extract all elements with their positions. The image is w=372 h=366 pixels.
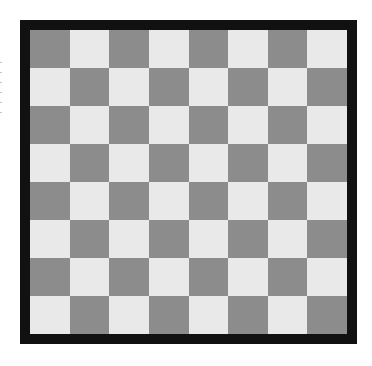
chessboard: [20, 20, 357, 344]
board-square[interactable]: [228, 30, 268, 68]
board-square[interactable]: [30, 106, 70, 144]
board-square[interactable]: [307, 182, 347, 220]
board-square[interactable]: [30, 258, 70, 296]
board-grid: [30, 30, 347, 334]
board-square[interactable]: [30, 220, 70, 258]
board-square[interactable]: [189, 144, 229, 182]
board-square[interactable]: [268, 296, 308, 334]
board-square[interactable]: [149, 220, 189, 258]
board-square[interactable]: [307, 144, 347, 182]
board-square[interactable]: [70, 144, 110, 182]
board-square[interactable]: [149, 144, 189, 182]
board-square[interactable]: [189, 182, 229, 220]
board-square[interactable]: [189, 30, 229, 68]
board-square[interactable]: [70, 220, 110, 258]
board-square[interactable]: [70, 296, 110, 334]
board-square[interactable]: [189, 106, 229, 144]
board-square[interactable]: [109, 182, 149, 220]
board-square[interactable]: [307, 220, 347, 258]
board-square[interactable]: [109, 30, 149, 68]
board-square[interactable]: [268, 220, 308, 258]
board-square[interactable]: [149, 68, 189, 106]
board-square[interactable]: [307, 30, 347, 68]
board-square[interactable]: [307, 68, 347, 106]
board-square[interactable]: [149, 258, 189, 296]
board-square[interactable]: [30, 30, 70, 68]
board-square[interactable]: [268, 106, 308, 144]
board-square[interactable]: [109, 68, 149, 106]
board-square[interactable]: [189, 68, 229, 106]
edge-marks: [0, 62, 3, 122]
board-square[interactable]: [149, 106, 189, 144]
board-square[interactable]: [109, 220, 149, 258]
board-square[interactable]: [268, 258, 308, 296]
board-square[interactable]: [228, 182, 268, 220]
board-square[interactable]: [307, 106, 347, 144]
board-square[interactable]: [30, 144, 70, 182]
board-square[interactable]: [30, 68, 70, 106]
board-square[interactable]: [228, 68, 268, 106]
board-square[interactable]: [228, 106, 268, 144]
board-square[interactable]: [189, 220, 229, 258]
board-square[interactable]: [228, 220, 268, 258]
board-square[interactable]: [228, 296, 268, 334]
board-square[interactable]: [149, 30, 189, 68]
board-square[interactable]: [268, 30, 308, 68]
board-square[interactable]: [149, 296, 189, 334]
board-square[interactable]: [70, 30, 110, 68]
board-square[interactable]: [70, 68, 110, 106]
board-square[interactable]: [189, 258, 229, 296]
board-square[interactable]: [149, 182, 189, 220]
board-square[interactable]: [109, 258, 149, 296]
board-square[interactable]: [109, 144, 149, 182]
board-square[interactable]: [109, 296, 149, 334]
board-square[interactable]: [30, 296, 70, 334]
board-square[interactable]: [70, 182, 110, 220]
board-square[interactable]: [307, 258, 347, 296]
board-square[interactable]: [70, 106, 110, 144]
board-square[interactable]: [307, 296, 347, 334]
board-square[interactable]: [268, 182, 308, 220]
board-square[interactable]: [268, 144, 308, 182]
board-square[interactable]: [70, 258, 110, 296]
board-square[interactable]: [228, 258, 268, 296]
board-square[interactable]: [30, 182, 70, 220]
board-square[interactable]: [268, 68, 308, 106]
board-square[interactable]: [228, 144, 268, 182]
board-square[interactable]: [189, 296, 229, 334]
board-square[interactable]: [109, 106, 149, 144]
